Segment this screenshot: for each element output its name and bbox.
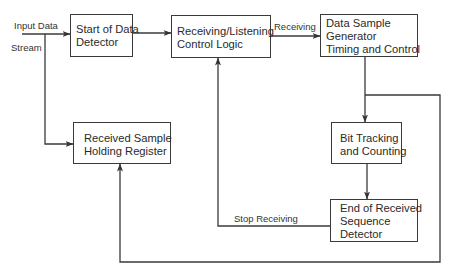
control-logic-block: Receiving/Listening Control Logic [171, 15, 271, 58]
arrow-end-to-control [218, 58, 330, 226]
end-of-sequence-detector-block: End of Received Sequence Detector [330, 199, 418, 242]
arrow-input-to-holding [45, 34, 73, 144]
block-text: Data Sample [326, 17, 417, 30]
holding-register-block: Received Sample Holding Register [73, 122, 171, 164]
block-text: Sequence [340, 215, 417, 228]
bit-tracking-block: Bit Tracking and Counting [331, 122, 402, 164]
block-text: Generator [326, 30, 417, 43]
block-text: Start of Data [76, 23, 132, 36]
block-text: Bit Tracking [340, 132, 401, 145]
block-text: Received Sample [84, 132, 170, 145]
block-text: and Counting [340, 145, 401, 158]
stop-receiving-label: Stop Receiving [234, 213, 298, 224]
start-of-data-detector-block: Start of Data Detector [70, 14, 133, 57]
block-text: Timing and Control [326, 43, 417, 56]
block-text: End of Received [340, 202, 417, 215]
data-sample-generator-block: Data Sample Generator Timing and Control [320, 14, 418, 57]
input-label: Input Data [14, 20, 58, 31]
block-text: Detector [340, 228, 417, 241]
block-text: Control Logic [177, 38, 270, 51]
block-text: Holding Register [84, 145, 170, 158]
block-text: Receiving/Listening [177, 25, 270, 38]
block-text: Detector [76, 36, 132, 49]
receiving-label: Receiving [274, 21, 316, 32]
stream-label: Stream [11, 42, 42, 53]
